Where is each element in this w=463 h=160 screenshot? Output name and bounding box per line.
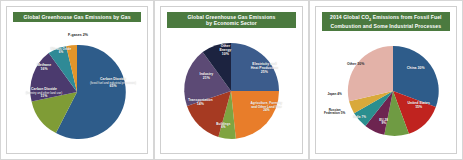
chart-1-pie-svg — [22, 39, 132, 145]
chart-3-pie-area: China 30% United States 15% EU-28 9% Ind… — [316, 7, 456, 153]
slice-electricity-heat — [231, 43, 279, 91]
slice-agriculture — [231, 91, 279, 139]
chart-panel-3-inner: 2014 Global CO2 Emissions from Fossil Fu… — [315, 6, 457, 154]
chart-panel-co2-by-country: 2014 Global CO2 Emissions from Fossil Fu… — [309, 0, 463, 160]
chart-panel-2-inner: Global Greenhouse Gas Emissions by Econo… — [160, 6, 302, 154]
chart-panel-emissions-by-sector: Global Greenhouse Gas Emissions by Econo… — [154, 0, 308, 160]
chart-2-pie-area: Electricity and Heat Production 25% Agri… — [161, 7, 301, 153]
chart-2-pie-svg — [175, 35, 287, 147]
chart-3-pie-svg — [339, 37, 447, 145]
three-pie-chart-figure: Global Greenhouse Gas Emissions by Gas F… — [0, 0, 463, 160]
chart-1-pie-area: Carbon Dioxide (fossil fuel and industri… — [7, 7, 147, 153]
chart-panel-1-inner: Global Greenhouse Gas Emissions by Gas F… — [6, 6, 148, 154]
chart-panel-emissions-by-gas: Global Greenhouse Gas Emissions by Gas F… — [0, 0, 154, 160]
